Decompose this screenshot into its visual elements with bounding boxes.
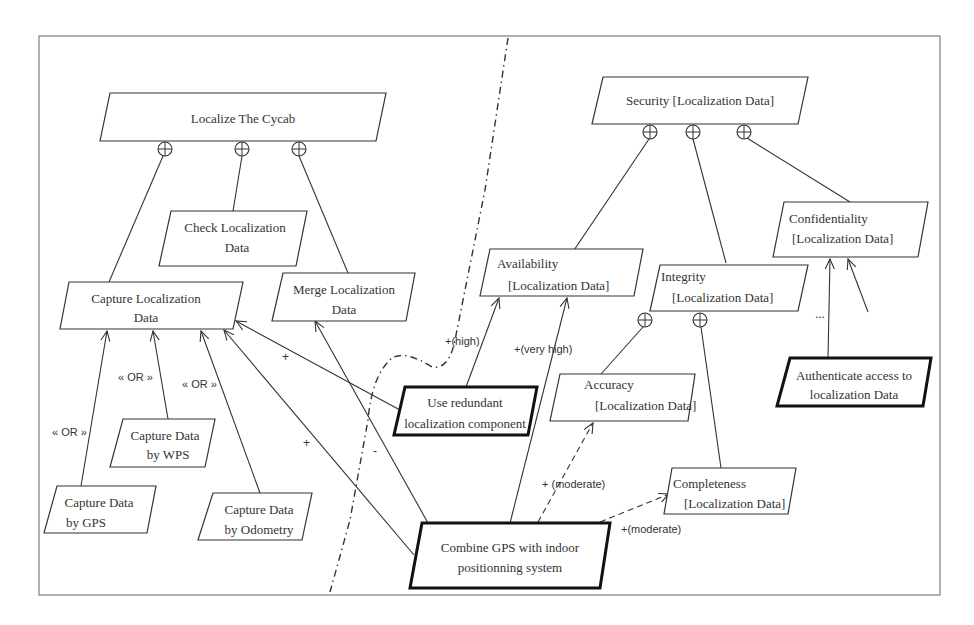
edge-integrity-completeness bbox=[701, 327, 721, 468]
edge-authenticate-confidentiality bbox=[828, 259, 830, 358]
node-label: Check Localization bbox=[184, 220, 286, 235]
ellipsis-more: ... bbox=[815, 306, 825, 321]
node-label: Security [Localization Data] bbox=[626, 93, 774, 108]
edge-wps-capture bbox=[153, 331, 168, 419]
edge-redundant-capture bbox=[236, 321, 400, 410]
goal-capture-data-by-wps[interactable]: Capture Data by WPS bbox=[110, 419, 215, 467]
node-label: Integrity bbox=[661, 269, 706, 284]
contribution-very-high: +(very high) bbox=[514, 343, 572, 355]
softgoal-availability[interactable]: Availability [Localization Data] bbox=[480, 249, 643, 296]
and-decomposition-icon bbox=[235, 142, 249, 156]
and-decomposition-icon bbox=[686, 125, 700, 139]
node-label: Availability bbox=[497, 256, 559, 271]
node-label: Combine GPS with indoor bbox=[441, 540, 580, 555]
node-label: [Localization Data] bbox=[508, 278, 609, 293]
node-label: Authenticate access to bbox=[796, 368, 912, 383]
node-label: [Localization Data] bbox=[684, 496, 785, 511]
goal-check-localization-data[interactable]: Check Localization Data bbox=[159, 211, 307, 266]
node-label: Capture Data bbox=[225, 502, 294, 517]
edge-integrity-accuracy bbox=[601, 327, 643, 374]
node-label: Capture Localization bbox=[91, 291, 201, 306]
node-label: Completeness bbox=[673, 476, 746, 491]
and-decomposition-icon bbox=[292, 142, 306, 156]
or-label-wps: « OR » bbox=[118, 371, 153, 383]
softgoal-integrity[interactable]: Integrity [Localization Data] bbox=[650, 265, 808, 311]
edge-combine-completeness bbox=[600, 494, 669, 522]
and-decomposition-icon bbox=[158, 142, 172, 156]
contribution-high: +(high) bbox=[445, 335, 480, 347]
node-label: localization Data bbox=[810, 387, 899, 402]
edge-gps-capture bbox=[81, 331, 107, 486]
and-decomposition-icon bbox=[638, 313, 652, 327]
node-label: positionning system bbox=[458, 560, 562, 575]
edge-root-capture bbox=[109, 156, 163, 282]
node-label: [Localization Data] bbox=[672, 290, 773, 305]
node-label: by WPS bbox=[147, 447, 190, 462]
node-label: [Localization Data] bbox=[792, 231, 893, 246]
softgoal-completeness[interactable]: Completeness [Localization Data] bbox=[664, 468, 796, 514]
operationalization-combine-gps-indoor[interactable]: Combine GPS with indoor positionning sys… bbox=[410, 523, 610, 588]
edge-combine-accuracy bbox=[538, 423, 593, 522]
contribution-moderate-completeness: +(moderate) bbox=[621, 523, 681, 535]
softgoal-accuracy[interactable]: Accuracy [Localization Data] bbox=[550, 374, 696, 421]
node-label: localization component bbox=[404, 416, 526, 431]
contribution-minus-merge: - bbox=[373, 444, 377, 458]
node-label: Capture Data bbox=[65, 495, 134, 510]
or-label-odometry: « OR » bbox=[182, 378, 217, 390]
edge-odometry-capture bbox=[201, 331, 260, 493]
node-label: Use redundant bbox=[427, 395, 503, 410]
contribution-plus-redundant: + bbox=[282, 350, 289, 364]
contribution-moderate-accuracy: + (moderate) bbox=[542, 478, 605, 490]
operationalization-authenticate-access[interactable]: Authenticate access to localization Data bbox=[777, 358, 931, 406]
node-label: Merge Localization bbox=[293, 282, 395, 297]
node-label: Confidentiality bbox=[789, 211, 868, 226]
node-label: Capture Data bbox=[131, 428, 200, 443]
node-label: by Odometry bbox=[225, 522, 294, 537]
goal-merge-localization-data[interactable]: Merge Localization Data bbox=[272, 273, 415, 321]
and-decomposition-icon bbox=[737, 125, 751, 139]
node-label: by GPS bbox=[66, 515, 106, 530]
node-label: Data bbox=[332, 302, 357, 317]
and-decomposition-icon bbox=[643, 125, 657, 139]
node-label: Accuracy bbox=[584, 377, 634, 392]
edge-ellipsis-confidentiality bbox=[848, 259, 868, 312]
edge-root-check bbox=[233, 156, 242, 211]
edge-security-integrity bbox=[693, 139, 726, 263]
edge-security-availability bbox=[566, 139, 649, 262]
goal-capture-data-by-gps[interactable]: Capture Data by GPS bbox=[44, 486, 156, 533]
contribution-plus-combine: + bbox=[303, 436, 310, 450]
node-label: Localize The Cycab bbox=[191, 111, 295, 126]
edge-security-confidentiality bbox=[747, 138, 850, 202]
node-label: Data bbox=[134, 310, 159, 325]
node-label: [Localization Data] bbox=[595, 398, 696, 413]
goal-diagram: Localize The Cycab Check Localization Da… bbox=[0, 0, 974, 625]
softgoal-security[interactable]: Security [Localization Data] bbox=[592, 77, 808, 124]
or-label-gps: « OR » bbox=[52, 426, 87, 438]
and-decomposition-icon bbox=[693, 313, 707, 327]
operationalization-use-redundant-component[interactable]: Use redundant localization component bbox=[394, 387, 537, 435]
node-label: Data bbox=[225, 240, 250, 255]
goal-localize-the-cycab[interactable]: Localize The Cycab bbox=[100, 93, 386, 141]
goal-capture-localization-data[interactable]: Capture Localization Data bbox=[60, 282, 243, 329]
softgoal-confidentiality[interactable]: Confidentiality [Localization Data] bbox=[773, 202, 928, 257]
goal-capture-data-by-odometry[interactable]: Capture Data by Odometry bbox=[198, 493, 312, 540]
